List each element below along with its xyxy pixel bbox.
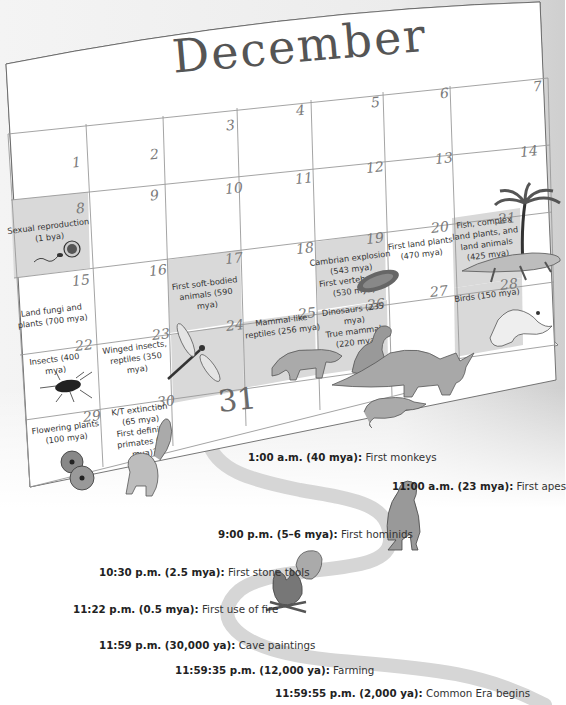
timeline-event: Common Era begins [426, 687, 530, 699]
timeline-item: 11:22 p.m. (0.5 mya): First use of fire [73, 603, 278, 615]
timeline-item: 11:59:55 p.m. (2,000 ya): Common Era beg… [275, 687, 530, 699]
timeline-time: 10:30 p.m. (2.5 mya): [99, 566, 225, 578]
timeline-time: 11:59 p.m. (30,000 ya): [99, 639, 235, 651]
timeline-item: 11:00 a.m. (23 mya): First apes [392, 480, 566, 492]
timeline-event: First stone tools [228, 566, 310, 578]
timeline-item: 11:59:35 p.m. (12,000 ya): Farming [175, 664, 374, 676]
triceratops-icon [332, 350, 474, 397]
timeline-time: 11:59:35 p.m. (12,000 ya): [175, 664, 330, 676]
timeline-event: First monkeys [365, 451, 436, 463]
bird-icon [490, 310, 552, 347]
timeline-event: First hominids [341, 528, 413, 540]
palm-tree-icon [495, 183, 560, 265]
shrew-icon [364, 398, 426, 429]
flowers-icon [61, 451, 94, 490]
cockroach-icon [40, 372, 92, 402]
timeline-event: First use of fire [202, 603, 278, 615]
timeline-time: 11:22 p.m. (0.5 mya): [73, 603, 199, 615]
mammal-like-reptile-icon [272, 350, 342, 380]
timeline-item: 10:30 p.m. (2.5 mya): First stone tools [99, 566, 310, 578]
timeline-time: 11:00 a.m. (23 mya): [392, 480, 513, 492]
timeline-event: Farming [333, 664, 374, 676]
trilobite-icon [354, 265, 402, 297]
sperm-egg-icon [34, 241, 80, 262]
timeline-time: 9:00 p.m. (5–6 mya): [218, 528, 338, 540]
timeline-event: First apes [517, 480, 566, 492]
primate-icon [126, 419, 172, 496]
timeline-item: 1:00 a.m. (40 mya): First monkeys [248, 451, 437, 463]
timeline-item: 9:00 p.m. (5–6 mya): First hominids [218, 528, 413, 540]
timeline-item: 11:59 p.m. (30,000 ya): Cave paintings [99, 639, 315, 651]
timeline-event: Cave paintings [239, 639, 316, 651]
amphibian-icon [462, 253, 560, 282]
timeline-time: 11:59:55 p.m. (2,000 ya): [275, 687, 423, 699]
dragonfly-icon [168, 322, 223, 384]
timeline-time: 1:00 a.m. (40 mya): [248, 451, 362, 463]
